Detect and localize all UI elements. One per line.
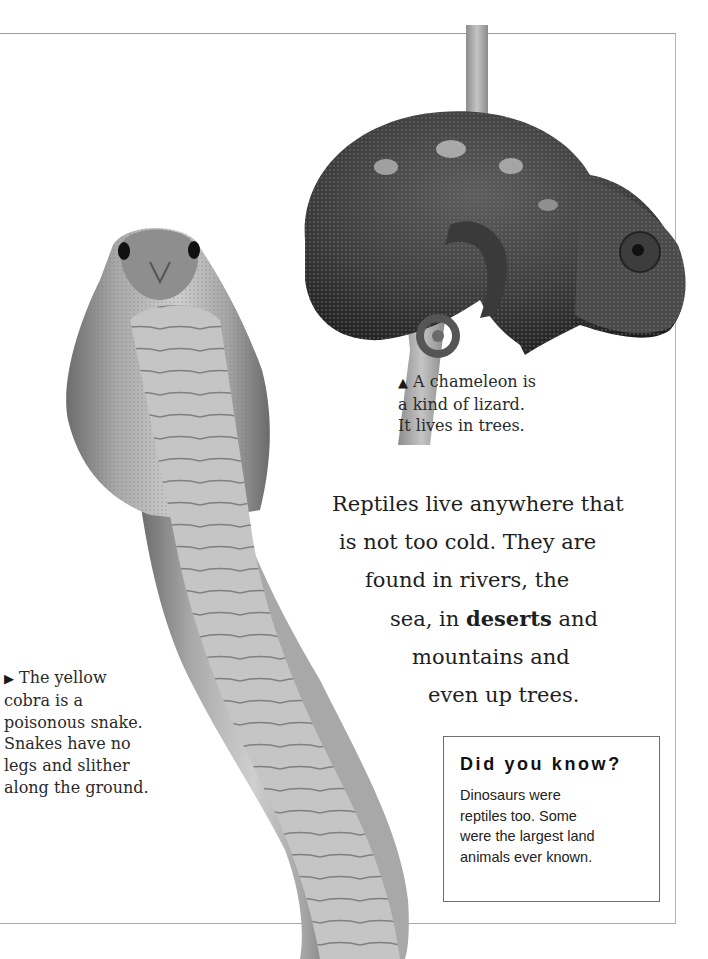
main-line: mountains and (412, 638, 570, 677)
fact-line: Dinosaurs were (460, 785, 595, 806)
cobra-caption: ▶The yellow cobra is a poisonous snake. … (4, 667, 149, 799)
main-line: found in rivers, the (365, 561, 569, 600)
triangle-right-icon: ▶ (4, 671, 14, 686)
main-line: even up trees. (428, 676, 579, 715)
fact-line: reptiles too. Some (460, 806, 595, 827)
caption-line: It lives in trees. (398, 415, 536, 437)
did-you-know-box: Did you know? Dinosaurs were reptiles to… (443, 736, 660, 902)
caption-line: Snakes have no (4, 733, 149, 755)
main-line: sea, in deserts and (390, 600, 598, 639)
did-you-know-body: Dinosaurs were reptiles too. Some were t… (460, 785, 595, 867)
caption-line: cobra is a (4, 690, 149, 712)
did-you-know-title: Did you know? (460, 754, 622, 775)
fact-line: were the largest land (460, 826, 595, 847)
main-line: Reptiles live anywhere that (332, 485, 624, 524)
caption-line: along the ground. (4, 777, 149, 799)
caption-line: ▲A chameleon is (398, 371, 536, 394)
caption-line: legs and slither (4, 755, 149, 777)
caption-line: a kind of lizard. (398, 394, 536, 416)
bold-term-deserts: deserts (466, 606, 552, 631)
caption-line: ▶The yellow (4, 667, 149, 690)
chameleon-caption: ▲A chameleon is a kind of lizard. It liv… (398, 371, 536, 437)
fact-line: animals ever known. (460, 847, 595, 868)
main-line: is not too cold. They are (339, 523, 596, 562)
triangle-up-icon: ▲ (398, 375, 408, 390)
caption-line: poisonous snake. (4, 712, 149, 734)
